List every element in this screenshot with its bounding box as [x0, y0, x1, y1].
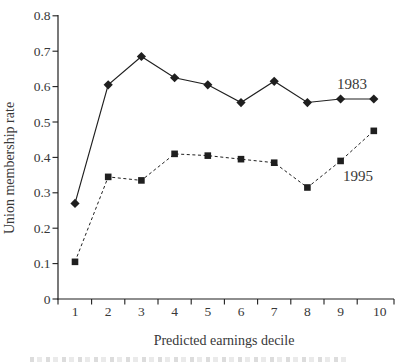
x-tick-label: 1 — [72, 304, 79, 319]
figure-canvas: 00.10.20.30.40.50.60.70.8 12345678910 Pr… — [0, 0, 408, 362]
series-layer — [70, 52, 378, 265]
x-tick-label: 10 — [373, 304, 387, 319]
marker-diamond-1983-decile-9 — [336, 94, 345, 103]
marker-square-1995-decile-3 — [138, 177, 145, 184]
marker-diamond-1983-decile-10 — [369, 94, 378, 103]
series-line-1995 — [75, 131, 374, 262]
x-tick-label: 4 — [171, 304, 178, 319]
x-tick-label: 7 — [271, 304, 278, 319]
x-axis-title: Predicted earnings decile — [154, 333, 295, 348]
marker-square-1995-decile-6 — [238, 156, 245, 163]
x-tick-label: 3 — [138, 304, 145, 319]
marker-square-1995-decile-5 — [205, 152, 212, 159]
y-axis-tick-labels: 00.10.20.30.40.50.60.70.8 — [34, 8, 51, 306]
y-tick-label: 0.6 — [34, 79, 51, 94]
x-tick-label: 2 — [105, 304, 112, 319]
marker-diamond-1983-decile-8 — [303, 98, 312, 107]
marker-square-1995-decile-2 — [105, 174, 112, 181]
y-tick-label: 0 — [44, 292, 51, 307]
marker-diamond-1983-decile-7 — [270, 77, 279, 86]
y-tick-label: 0.7 — [34, 44, 51, 59]
x-tick-label: 6 — [238, 304, 245, 319]
marker-diamond-1983-decile-1 — [70, 199, 79, 208]
marker-square-1995-decile-10 — [371, 128, 378, 135]
y-axis-title: Union membership rate — [2, 102, 17, 234]
y-tick-label: 0.3 — [34, 185, 51, 200]
marker-diamond-1983-decile-4 — [170, 73, 179, 82]
marker-diamond-1983-decile-5 — [203, 80, 212, 89]
y-axis-ticks — [53, 16, 59, 299]
x-axis-tick-labels: 12345678910 — [72, 304, 387, 319]
series-line-1983 — [75, 57, 374, 204]
y-tick-label: 0.2 — [34, 221, 51, 236]
y-tick-label: 0.1 — [34, 256, 51, 271]
line-chart: 00.10.20.30.40.50.60.70.8 12345678910 Pr… — [0, 0, 408, 362]
y-tick-label: 0.4 — [34, 150, 51, 165]
marker-square-1995-decile-8 — [304, 184, 311, 191]
marker-square-1995-decile-1 — [72, 259, 79, 266]
series-label-1995: 1995 — [343, 168, 373, 184]
series-label-1983: 1983 — [337, 76, 367, 92]
y-tick-label: 0.5 — [34, 115, 51, 130]
x-tick-label: 8 — [304, 304, 311, 319]
marker-square-1995-decile-9 — [337, 158, 344, 165]
marker-square-1995-decile-7 — [271, 159, 278, 166]
marker-diamond-1983-decile-6 — [236, 98, 245, 107]
x-tick-label: 9 — [337, 304, 344, 319]
y-tick-label: 0.8 — [34, 8, 51, 23]
x-tick-label: 5 — [204, 304, 211, 319]
marker-square-1995-decile-4 — [171, 151, 178, 158]
cutoff-caption-fragment — [30, 357, 348, 362]
